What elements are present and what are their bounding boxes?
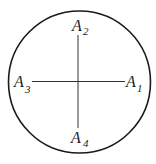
label-a1-subscript: 1 [137,82,143,94]
label-a1: A 1 [125,73,143,94]
label-a3-base: A [13,73,24,90]
label-a4-subscript: 4 [83,137,89,149]
label-a2-subscript: 2 [83,25,89,37]
label-a2-base: A [71,17,82,34]
label-a4: A 4 [70,129,89,149]
label-a2: A 2 [71,17,89,37]
label-a3-subscript: 3 [24,83,31,95]
circle-diagram: A 2 A 3 A 1 A 4 [0,0,156,164]
label-a1-base: A [125,73,136,90]
label-a4-base: A [70,129,81,146]
label-a3: A 3 [13,73,31,95]
